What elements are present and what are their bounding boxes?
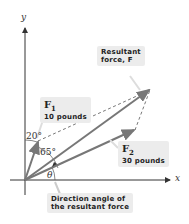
x-axis-label: x — [175, 173, 180, 183]
callout-pointer-resultant — [130, 76, 140, 90]
angle-65-label: 65° — [40, 147, 56, 157]
f2-magnitude: 30 pounds — [122, 157, 165, 165]
angle-arc-theta — [52, 167, 55, 180]
direction-angle-callout: Direction angle of the resultant force — [47, 193, 133, 213]
dashed-f1-translate — [135, 90, 150, 130]
callout-pointer-f2 — [110, 140, 118, 148]
resultant-label: Resultant force, F — [97, 46, 145, 66]
f1-label: F1 10 pounds — [40, 97, 91, 123]
f1-magnitude: 10 pounds — [44, 113, 87, 121]
vector-diagram — [0, 0, 189, 224]
y-axis-label: y — [21, 12, 26, 22]
f2-label: F2 30 pounds — [118, 141, 169, 167]
angle-theta-label: θ — [47, 170, 52, 180]
angle-20-label: 20° — [26, 131, 42, 141]
